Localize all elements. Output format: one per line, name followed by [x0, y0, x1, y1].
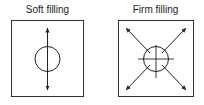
arrow-down-left-icon: [126, 65, 150, 90]
arrow-up-left-icon: [126, 28, 150, 53]
filling-diagram: [0, 0, 204, 105]
arrow-up-right-icon: [162, 28, 186, 53]
soft-filling-panel: [12, 21, 84, 97]
arrow-down-right-icon: [162, 65, 186, 90]
firm-filling-panel: [119, 21, 194, 97]
